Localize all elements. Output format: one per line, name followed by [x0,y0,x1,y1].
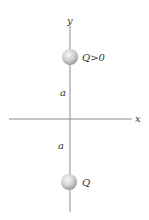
charge-sphere-top [62,49,78,65]
charge-label-bottom: Q [82,177,90,188]
distance-label-top: a [60,87,66,98]
charge-label-top: Q>0 [82,52,106,63]
x-axis-label: x [135,113,141,124]
distance-label-bottom: a [58,140,64,151]
charge-sphere-bottom [61,174,77,190]
y-axis-label: y [66,15,73,26]
charge-diagram: y x Q>0 Q a a [0,0,149,220]
